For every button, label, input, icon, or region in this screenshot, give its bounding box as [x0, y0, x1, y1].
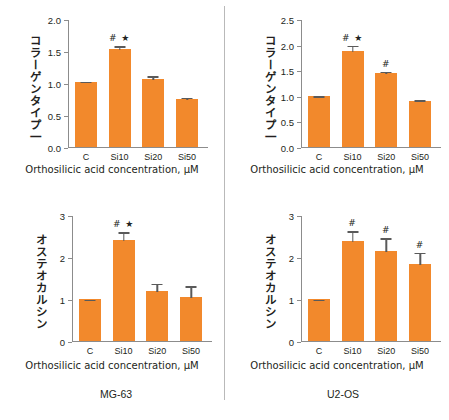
y-tick-label: 0.0 [48, 143, 61, 154]
plot-area: # ★# CSi10Si20Si50 0.00.51.01.52.02.5 [301, 20, 437, 148]
error-bar [352, 231, 353, 242]
bar [375, 73, 397, 147]
y-tick [68, 342, 72, 343]
y-tick [297, 20, 301, 21]
error-bar [190, 286, 191, 298]
y-tick-label: 3 [289, 211, 294, 222]
x-tick-labels: CSi10Si20Si50 [302, 152, 437, 162]
y-tick-label: 1.0 [281, 91, 294, 102]
error-bar-cap [415, 253, 426, 254]
x-axis-line [301, 341, 441, 342]
error-bar-cap [186, 286, 197, 287]
y-tick [297, 122, 301, 123]
bar [342, 51, 364, 147]
y-tick-label: 0.5 [281, 117, 294, 128]
bar [176, 99, 198, 147]
y-tick-label: 0.0 [281, 143, 294, 154]
bar [180, 297, 202, 341]
bar-item: # [375, 216, 397, 341]
bar [409, 264, 431, 341]
y-tick-label: 1.0 [48, 79, 61, 90]
y-tick-label: 1 [60, 295, 65, 306]
bar [109, 49, 131, 147]
bar-item [146, 216, 168, 341]
y-tick [64, 20, 68, 21]
significance-marker: # ★ [342, 33, 363, 43]
error-bar-cap [381, 238, 392, 239]
x-tick-label: Si50 [409, 346, 431, 356]
bar-item: # ★ [342, 20, 364, 147]
bar-item [79, 216, 101, 341]
significance-marker: # [348, 218, 357, 228]
y-tick-label: 2.0 [281, 40, 294, 51]
error-bar-cap [381, 72, 392, 73]
y-tick [297, 148, 301, 149]
error-bar-cap [152, 284, 163, 285]
bar-item [176, 20, 198, 147]
y-axis-title: オステオカルシン [259, 212, 279, 352]
error-bar-cap [84, 300, 95, 301]
y-tick [297, 46, 301, 47]
bar [79, 299, 101, 341]
cell-line-label-left: MG-63 [100, 388, 132, 400]
chart-panel-u2os-collagen: コラーゲンタイプ一 # ★# CSi10Si20Si50 0.00.51.01.… [225, 0, 449, 190]
error-bar-cap [415, 100, 426, 101]
bar-item [180, 216, 202, 341]
bar [308, 299, 330, 341]
bar-item [409, 20, 431, 147]
y-tick [64, 52, 68, 53]
x-tick-labels: CSi10Si20Si50 [69, 152, 204, 162]
cell-line-label-right: U2-OS [327, 388, 359, 400]
y-axis-title: コラーゲンタイプ一 [24, 14, 44, 164]
error-bar [419, 253, 420, 266]
x-tick-label: Si20 [142, 152, 164, 162]
figure-root: コラーゲンタイプ一 # ★ CSi10Si20Si50 0.00.51.01.5… [0, 0, 449, 420]
error-bar-cap [118, 232, 129, 233]
y-tick [64, 116, 68, 117]
plot-area: # ★ CSi10Si20Si50 0.00.51.01.52.0 [68, 20, 204, 148]
plot-area: ### CSi10Si20Si50 0123 [301, 216, 437, 342]
y-tick [297, 97, 301, 98]
y-tick-label: 3 [60, 211, 65, 222]
chart-panel-mg63-osteocalcin: オステオカルシン # ★ CSi10Si20Si50 0123 Orthosil… [0, 190, 224, 380]
x-axis-line [72, 341, 212, 342]
x-tick-label: Si20 [375, 346, 397, 356]
x-axis-title: Orthosilicic acid concentration, µM [231, 360, 443, 371]
bar [146, 291, 168, 341]
y-tick-label: 1.5 [48, 47, 61, 58]
bar-item: # [375, 20, 397, 147]
x-tick-label: Si50 [409, 152, 431, 162]
x-axis-line [68, 147, 208, 148]
y-tick [68, 216, 72, 217]
bar [409, 101, 431, 147]
x-tick-labels: CSi10Si20Si50 [73, 346, 208, 356]
significance-marker: # [416, 240, 425, 250]
y-tick-label: 1 [289, 295, 294, 306]
x-tick-label: C [75, 152, 97, 162]
bar-item: # ★ [113, 216, 135, 341]
significance-marker: # [382, 225, 391, 235]
y-axis-title: オステオカルシン [30, 212, 50, 352]
y-tick [297, 71, 301, 72]
bar-group: # ★# [302, 20, 437, 147]
x-axis-title: Orthosilicic acid concentration, µM [6, 164, 218, 175]
error-bar-cap [80, 82, 91, 83]
y-tick-label: 1.5 [281, 66, 294, 77]
x-tick-label: Si10 [109, 152, 131, 162]
x-tick-label: Si50 [176, 152, 198, 162]
bar-item [308, 20, 330, 147]
bar [113, 240, 135, 341]
y-tick [297, 258, 301, 259]
y-tick [68, 258, 72, 259]
bar [375, 251, 397, 341]
y-tick-label: 0.5 [48, 111, 61, 122]
y-tick-label: 2 [289, 253, 294, 264]
error-bar-cap [148, 76, 159, 77]
bar-item: # [342, 216, 364, 341]
bar [75, 82, 97, 147]
bar-item [308, 216, 330, 341]
x-axis-title: Orthosilicic acid concentration, µM [6, 360, 218, 371]
error-bar-cap [182, 98, 193, 99]
x-axis-title: Orthosilicic acid concentration, µM [231, 164, 443, 175]
significance-marker: # [382, 59, 391, 69]
